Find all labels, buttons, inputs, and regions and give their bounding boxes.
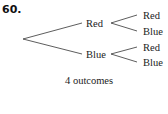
branch-red-blue: [111, 23, 137, 31]
branch-blue-red: [111, 47, 137, 54]
node-blue-red: Red: [143, 42, 161, 53]
branch-blue-blue: [111, 54, 137, 62]
node-red-blue: Blue: [143, 26, 163, 37]
branches: [23, 15, 137, 62]
node-red: Red: [86, 18, 104, 29]
branch-red-red: [111, 15, 137, 23]
branch-root-blue: [23, 39, 82, 54]
branch-root-red: [23, 23, 82, 39]
tree-diagram: Red Blue Red Blue Red Blue 4 outcomes: [0, 0, 168, 114]
node-red-red: Red: [143, 10, 161, 21]
node-blue-blue: Blue: [143, 57, 163, 68]
node-blue: Blue: [86, 49, 106, 60]
outcomes-caption: 4 outcomes: [65, 75, 113, 86]
